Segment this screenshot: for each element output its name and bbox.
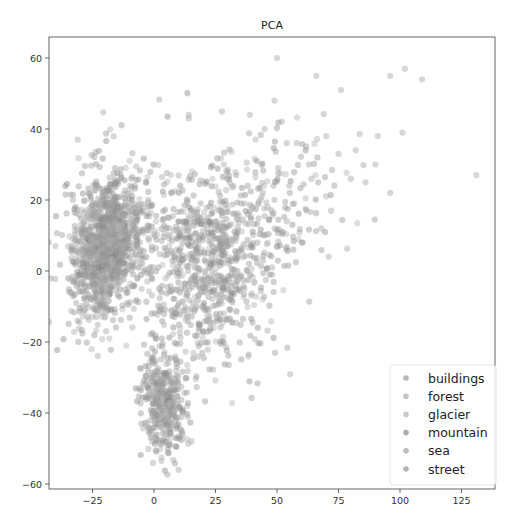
data-point (153, 268, 159, 274)
data-point (229, 289, 235, 295)
data-point (191, 209, 197, 215)
data-point (185, 414, 191, 420)
data-point (77, 248, 83, 254)
data-point (348, 176, 354, 182)
data-point (193, 246, 199, 252)
data-point (313, 73, 319, 79)
data-point (184, 291, 190, 297)
data-point (222, 316, 228, 322)
data-point (134, 398, 140, 404)
data-point (146, 288, 152, 294)
data-point (204, 179, 210, 185)
legend-marker-icon (403, 375, 409, 381)
data-point (64, 210, 70, 216)
data-point (110, 196, 116, 202)
data-point (133, 234, 139, 240)
data-point (204, 329, 210, 335)
data-point (295, 162, 301, 168)
data-point (184, 362, 190, 368)
data-point (118, 317, 124, 323)
data-point (88, 194, 94, 200)
data-point (84, 314, 90, 320)
data-point (139, 286, 145, 292)
data-point (117, 286, 123, 292)
data-point (270, 183, 276, 189)
data-point (65, 275, 71, 281)
data-point (223, 201, 229, 207)
data-point (183, 375, 189, 381)
data-point (138, 410, 144, 416)
data-point (85, 186, 91, 192)
data-point (271, 145, 277, 151)
data-point (216, 224, 222, 230)
data-point (357, 131, 363, 137)
data-point (143, 213, 149, 219)
data-point (172, 340, 178, 346)
data-point (166, 432, 172, 438)
data-point (70, 293, 76, 299)
data-point (126, 230, 132, 236)
data-point (226, 306, 232, 312)
data-point (201, 300, 207, 306)
data-point (162, 275, 168, 281)
data-point (164, 421, 170, 427)
data-point (335, 151, 341, 157)
data-point (64, 181, 70, 187)
data-point (108, 347, 114, 353)
data-point (354, 220, 360, 226)
data-point (161, 181, 167, 187)
y-tick-label: −60 (22, 479, 42, 490)
data-point (84, 231, 90, 237)
data-point (60, 336, 66, 342)
data-point (108, 280, 114, 286)
data-point (137, 365, 143, 371)
data-point (66, 233, 72, 239)
data-point (127, 158, 133, 164)
x-tick-label: 25 (209, 495, 221, 506)
data-point (251, 279, 257, 285)
data-point (93, 295, 99, 301)
data-point (240, 316, 246, 322)
data-point (239, 228, 245, 234)
data-point (75, 339, 81, 345)
data-point (185, 400, 191, 406)
data-point (248, 242, 254, 248)
data-point (202, 257, 208, 263)
data-point (159, 441, 165, 447)
data-point (90, 304, 96, 310)
data-point (100, 109, 106, 115)
data-point (102, 293, 108, 299)
data-point (173, 425, 179, 431)
data-point (255, 186, 261, 192)
data-point (177, 233, 183, 239)
data-point (88, 237, 94, 243)
data-point (59, 232, 65, 238)
data-point (219, 213, 225, 219)
data-point (185, 441, 191, 447)
data-point (254, 158, 260, 164)
data-point (192, 230, 198, 236)
data-point (144, 174, 150, 180)
data-point (175, 288, 181, 294)
data-point (103, 187, 109, 193)
data-point (153, 213, 159, 219)
data-point (263, 277, 269, 283)
data-point (207, 260, 213, 266)
data-point (269, 264, 275, 270)
legend-marker-icon (403, 466, 409, 472)
data-point (143, 299, 149, 305)
data-point (264, 328, 270, 334)
data-point (178, 245, 184, 251)
data-point (253, 136, 259, 142)
data-point (127, 315, 133, 321)
legend-item-glacier: glacier (428, 407, 471, 422)
data-point (206, 366, 212, 372)
data-point (89, 203, 95, 209)
data-point (171, 398, 177, 404)
data-point (375, 133, 381, 139)
data-point (159, 343, 165, 349)
data-point (306, 161, 312, 167)
data-point (207, 218, 213, 224)
data-point (244, 160, 250, 166)
data-point (103, 138, 109, 144)
